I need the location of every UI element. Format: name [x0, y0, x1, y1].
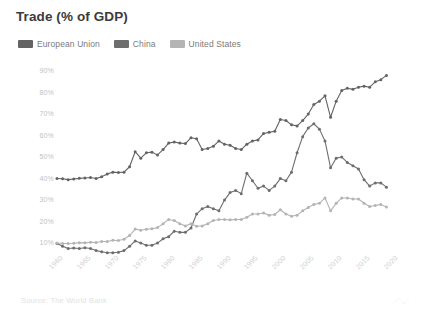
data-point [100, 250, 103, 253]
corner-watermark-icon [391, 296, 413, 306]
data-point [117, 239, 120, 242]
data-point [217, 139, 220, 142]
data-point [357, 198, 360, 201]
plot-area [0, 0, 425, 318]
data-point [156, 226, 159, 229]
data-point [72, 247, 75, 250]
data-point [385, 74, 388, 77]
data-point [212, 145, 215, 148]
data-point [374, 204, 377, 207]
data-point [257, 138, 260, 141]
data-point [284, 213, 287, 216]
data-point [229, 191, 232, 194]
data-point [190, 136, 193, 139]
data-point [83, 246, 86, 249]
data-point [229, 218, 232, 221]
source-note: Source: The World Bank [21, 296, 107, 305]
data-point [329, 166, 332, 169]
data-point [212, 219, 215, 222]
data-point [346, 161, 349, 164]
data-point [379, 181, 382, 184]
data-point [346, 196, 349, 199]
data-point [340, 89, 343, 92]
data-point [223, 199, 226, 202]
data-point [78, 241, 81, 244]
data-point [257, 213, 260, 216]
data-point [335, 157, 338, 160]
data-point [83, 241, 86, 244]
data-point [195, 225, 198, 228]
data-point [268, 189, 271, 192]
data-point [368, 86, 371, 89]
data-point [312, 203, 315, 206]
data-point [201, 207, 204, 210]
data-point [340, 156, 343, 159]
data-point [78, 247, 81, 250]
data-point [178, 231, 181, 234]
data-point [134, 228, 137, 231]
data-point [223, 218, 226, 221]
data-point [284, 179, 287, 182]
data-point [67, 178, 70, 181]
data-point [134, 150, 137, 153]
data-point [363, 85, 366, 88]
data-point [240, 192, 243, 195]
data-point [162, 148, 165, 151]
data-point [273, 213, 276, 216]
data-point [296, 214, 299, 217]
data-point [106, 240, 109, 243]
data-point [195, 137, 198, 140]
series-european-union [56, 74, 388, 181]
data-point [318, 128, 321, 131]
data-point [335, 202, 338, 205]
data-point [262, 132, 265, 135]
data-point [89, 241, 92, 244]
data-point [379, 203, 382, 206]
data-point [61, 242, 64, 245]
data-point [296, 124, 299, 127]
data-point [156, 242, 159, 245]
data-point [346, 87, 349, 90]
data-point [351, 198, 354, 201]
data-point [223, 143, 226, 146]
data-point [111, 239, 114, 242]
data-point [363, 178, 366, 181]
data-point [56, 242, 59, 245]
data-point [206, 222, 209, 225]
data-point [385, 205, 388, 208]
data-point [128, 245, 131, 248]
data-point [301, 209, 304, 212]
data-point [374, 181, 377, 184]
data-point [150, 151, 153, 154]
data-point [279, 177, 282, 180]
data-point [296, 151, 299, 154]
data-point [273, 185, 276, 188]
data-point [184, 231, 187, 234]
data-point [363, 202, 366, 205]
data-point [273, 130, 276, 133]
data-point [324, 196, 327, 199]
data-point [72, 242, 75, 245]
data-point [72, 178, 75, 181]
data-point [100, 175, 103, 178]
data-point [217, 209, 220, 212]
data-point [145, 244, 148, 247]
data-point [251, 139, 254, 142]
data-point [173, 230, 176, 233]
chart-figure: Trade (% of GDP) European Union China Un… [0, 0, 425, 318]
data-point [123, 249, 126, 252]
data-point [262, 211, 265, 214]
data-point [139, 242, 142, 245]
data-point [290, 123, 293, 126]
data-point [307, 113, 310, 116]
data-point [262, 185, 265, 188]
data-point [257, 187, 260, 190]
data-point [368, 205, 371, 208]
data-point [100, 240, 103, 243]
series-line [57, 75, 386, 179]
data-point [329, 209, 332, 212]
data-point [173, 141, 176, 144]
data-point [284, 119, 287, 122]
data-point [150, 244, 153, 247]
data-point [89, 247, 92, 250]
